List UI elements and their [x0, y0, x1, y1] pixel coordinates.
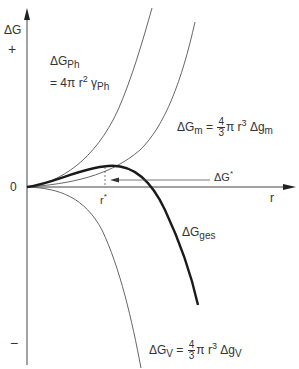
y-axis-minus: − — [10, 336, 18, 350]
critical-radius-label: r* — [100, 195, 107, 206]
y-axis-label: ΔG — [4, 24, 21, 36]
diagram-canvas — [0, 0, 299, 369]
volume-energy-equation: ΔGV = 43π r3 ΔgV — [149, 340, 242, 361]
curve-surface-energy — [27, 8, 152, 187]
y-axis-arrowhead — [24, 8, 30, 20]
x-axis-label: r — [270, 192, 274, 204]
critical-energy-arrowhead — [110, 178, 119, 183]
surface-energy-label: ΔGPh — [50, 55, 80, 67]
y-axis-zero: 0 — [10, 181, 17, 193]
matrix-energy-equation: ΔGm = 43π r3 Δgm — [177, 117, 273, 138]
surface-energy-equation: = 4π r2 γPh — [50, 77, 109, 89]
critical-energy-label: ΔG* — [214, 172, 233, 183]
x-axis-arrowhead — [283, 184, 296, 190]
curve-matrix-energy — [27, 22, 195, 187]
curve-volume-energy — [27, 187, 141, 368]
y-axis-plus: + — [8, 42, 16, 56]
total-energy-label: ΔGges — [182, 226, 215, 238]
